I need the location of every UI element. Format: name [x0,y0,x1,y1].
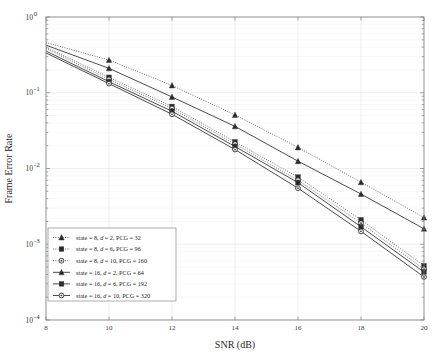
legend-label: state = 8, d = 6, PCG = 96 [76,245,141,252]
svg-text:-2: -2 [34,161,40,169]
x-tick-label: 18 [358,324,366,332]
legend-label: state = 16, d = 10, PCG = 320 [76,292,150,299]
svg-text:10: 10 [26,13,34,22]
x-tick-label: 20 [421,324,429,332]
svg-text:-4: -4 [34,313,40,321]
svg-text:10: 10 [26,88,34,97]
y-axis-title: Frame Error Rate [3,133,14,204]
x-tick-label: 12 [169,324,177,332]
legend-label: state = 16, d = 6, PCG = 192 [76,280,147,287]
legend-label: state = 16, d = 2, PCG = 64 [76,269,144,276]
data-point-marker [170,112,175,117]
chart-legend: state = 8, d = 2, PCG = 32state = 8, d =… [48,228,176,301]
data-point-marker [359,224,364,229]
chart-figure: 8101214161820 10010-110-210-310-4 state … [0,0,437,355]
svg-text:10: 10 [26,164,34,173]
data-point-marker [359,229,364,234]
legend-marker-sample [59,258,64,263]
frame-error-rate-chart: 8101214161820 10010-110-210-310-4 state … [0,0,437,355]
svg-text:10: 10 [26,240,34,249]
x-tick-label: 14 [232,324,240,332]
legend-label: state = 8, d = 2, PCG = 32 [76,234,141,241]
svg-text:-3: -3 [34,237,40,245]
x-tick-label: 8 [44,324,48,332]
data-point-marker [107,81,112,86]
svg-text:0: 0 [34,10,38,18]
data-point-marker [296,186,301,191]
x-axis-title: SNR (dB) [215,339,255,351]
data-point-marker [296,180,301,185]
figure-background [0,0,437,355]
legend-marker-sample [59,282,64,287]
svg-text:10: 10 [26,316,34,325]
x-tick-label: 10 [106,324,114,332]
legend-marker-sample [59,293,64,298]
legend-label: state = 8, d = 10, PCG = 160 [76,257,147,264]
svg-text:-1: -1 [34,85,40,93]
x-tick-label: 16 [295,324,303,332]
data-point-marker [233,147,238,152]
legend-marker-sample [59,247,64,252]
